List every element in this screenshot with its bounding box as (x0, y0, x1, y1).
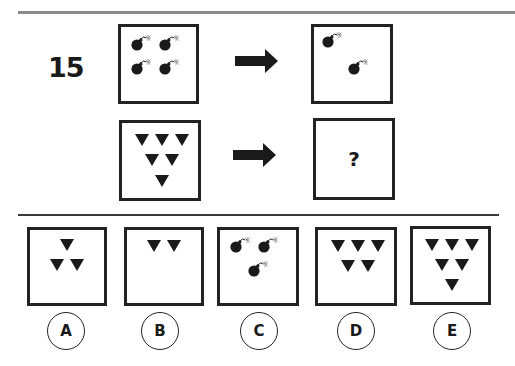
option-e-button[interactable]: E (433, 312, 471, 350)
query-left-panel (119, 120, 201, 201)
top-divider (18, 11, 515, 14)
option-c-button[interactable]: C (240, 312, 278, 350)
question-number: 15 (48, 52, 84, 83)
triangle-down-icon (30, 230, 110, 309)
question-mark: ? (316, 147, 392, 171)
option-e-panel[interactable] (410, 226, 491, 305)
option-d-button[interactable]: D (337, 312, 375, 350)
example-left-panel (118, 24, 199, 104)
option-label: E (447, 322, 457, 340)
option-b-button[interactable]: B (141, 312, 179, 350)
option-a-button[interactable]: A (47, 312, 85, 350)
triangle-down-icon (127, 230, 207, 309)
option-label: B (154, 322, 165, 340)
option-c-panel[interactable] (217, 227, 299, 306)
option-d-panel[interactable] (315, 227, 397, 306)
arrow-right-icon (233, 143, 277, 169)
arrow-right-icon (235, 49, 279, 75)
option-label: A (60, 322, 72, 340)
options-divider (18, 214, 499, 216)
triangle-down-icon (318, 230, 400, 309)
answer-placeholder-panel: ? (313, 118, 395, 200)
option-label: C (253, 322, 264, 340)
bomb-icon (220, 230, 302, 309)
option-b-panel[interactable] (124, 227, 204, 306)
option-a-panel[interactable] (27, 227, 107, 306)
example-right-panel (311, 24, 393, 104)
bomb-icon (121, 27, 202, 107)
bomb-icon (314, 27, 396, 107)
option-label: D (350, 322, 362, 340)
triangle-down-icon (122, 123, 204, 204)
triangle-down-icon (413, 229, 494, 308)
